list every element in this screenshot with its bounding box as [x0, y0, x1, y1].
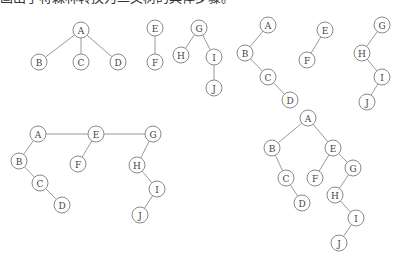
node-label: H: [331, 191, 339, 201]
node-label: F: [304, 56, 310, 66]
node-a: A: [73, 22, 89, 38]
node-h: H: [354, 45, 370, 61]
node-label: B: [36, 58, 43, 68]
node-label: I: [354, 214, 358, 224]
node-label: A: [264, 21, 272, 31]
edge-h-i: [367, 59, 377, 71]
node-j: J: [359, 94, 375, 110]
node-f: F: [70, 156, 86, 172]
node-d: D: [282, 92, 298, 108]
node-a: A: [260, 17, 276, 33]
node-b: B: [31, 54, 47, 70]
node-i: I: [149, 181, 165, 197]
node-label: D: [298, 199, 305, 209]
node-label: G: [349, 164, 356, 174]
node-label: C: [37, 179, 44, 189]
edge-b-c: [275, 155, 282, 171]
node-label: G: [378, 21, 385, 31]
edge-c-d: [274, 83, 285, 94]
node-label: A: [304, 114, 312, 124]
edge-h-i: [142, 171, 152, 183]
each-tree-binarized: ABCDEFGHIJ: [237, 17, 390, 110]
edge-a-d: [87, 35, 112, 57]
tree-a: ABCDEFGHIJ: [264, 110, 364, 251]
node-label: I: [212, 53, 216, 63]
edge-g-i: [203, 35, 211, 50]
edge-i-j: [371, 84, 378, 95]
forest-original: ABCDEFGHIJ: [31, 20, 222, 96]
node-i: I: [348, 210, 364, 226]
edge-i-j: [144, 196, 152, 209]
node-j: J: [331, 235, 347, 251]
node-i: I: [374, 69, 390, 85]
node-label: F: [152, 58, 158, 68]
tree-g: GHIJ: [354, 17, 390, 110]
edge-b-c: [25, 167, 35, 177]
node-label: J: [364, 98, 369, 108]
node-e: E: [317, 22, 333, 38]
edge-g-h: [367, 32, 378, 47]
edge-a-e: [313, 124, 328, 142]
node-a: A: [30, 126, 46, 142]
node-label: A: [77, 26, 85, 36]
node-label: D: [58, 201, 65, 211]
node-label: G: [195, 24, 202, 34]
node-f: F: [147, 54, 163, 70]
node-e: E: [325, 140, 341, 156]
node-label: C: [78, 58, 85, 68]
node-label: E: [330, 144, 337, 154]
edge-a-b: [45, 35, 74, 57]
node-b: B: [237, 45, 253, 61]
node-e: E: [147, 20, 163, 36]
node-f: F: [307, 170, 323, 186]
node-label: I: [380, 73, 384, 83]
node-g: G: [374, 17, 390, 33]
node-g: G: [145, 126, 161, 142]
edge-i-j: [343, 225, 351, 237]
node-i: I: [206, 49, 222, 65]
tree-e: EF: [147, 20, 163, 70]
node-label: I: [155, 185, 159, 195]
node-e: E: [88, 126, 104, 142]
edge-c-d: [290, 185, 297, 197]
tree-a: ABCD: [237, 17, 298, 108]
node-label: F: [75, 160, 81, 170]
forest-to-binary-tree-diagram: ABCDEFGHIJABCDEFGHIJABCDEFGHIJABCDEFGHIJ: [0, 0, 400, 262]
node-label: J: [336, 239, 341, 249]
final-binary-tree: ABCDEFGHIJ: [264, 110, 364, 251]
node-label: D: [286, 96, 293, 106]
node-c: C: [32, 175, 48, 191]
edge-e-f: [82, 141, 92, 157]
edge-h-i: [340, 201, 350, 212]
edge-e-f: [311, 37, 321, 53]
node-d: D: [54, 197, 70, 213]
node-h: H: [327, 187, 343, 203]
node-label: J: [137, 211, 142, 221]
edge-e-g: [339, 154, 348, 163]
node-j: J: [132, 207, 148, 223]
node-g: G: [345, 160, 361, 176]
tree-a: ABCDEFGHIJ: [11, 126, 165, 223]
edge-e-f: [319, 155, 329, 171]
node-label: B: [242, 49, 249, 59]
node-label: E: [152, 24, 159, 34]
tree-a: ABCD: [31, 22, 126, 70]
node-label: E: [93, 130, 100, 140]
node-h: H: [173, 47, 189, 63]
node-b: B: [264, 140, 280, 156]
node-label: E: [322, 26, 329, 36]
node-label: A: [34, 130, 42, 140]
roots-linked: ABCDEFGHIJ: [11, 126, 165, 223]
tree-e: EF: [299, 22, 333, 68]
node-label: B: [16, 157, 23, 167]
node-g: G: [191, 20, 207, 36]
edge-a-b: [24, 141, 34, 155]
node-d: D: [294, 195, 310, 211]
node-label: D: [114, 58, 121, 68]
node-c: C: [260, 69, 276, 85]
edge-g-h: [339, 175, 348, 189]
node-j: J: [206, 80, 222, 96]
node-a: A: [300, 110, 316, 126]
node-label: H: [177, 51, 185, 61]
node-label: C: [283, 174, 290, 184]
